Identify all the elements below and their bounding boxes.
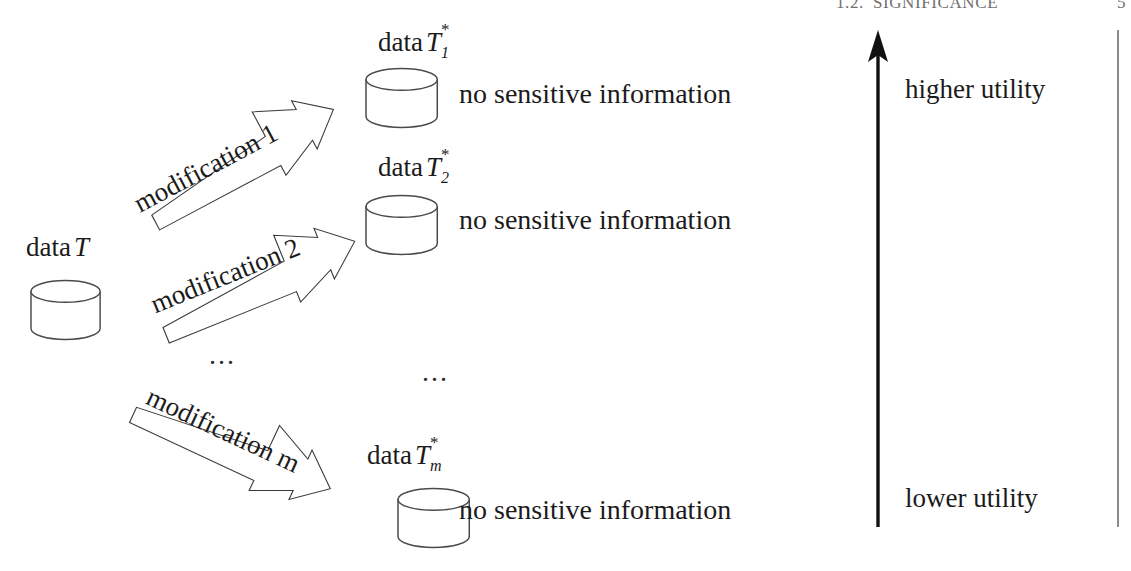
output-2-cylinder-icon (366, 196, 437, 255)
source-label-prefix: data (26, 232, 71, 262)
output-2-label-var-glyph: T (426, 152, 441, 182)
utility-axis-bottom-label: lower utility (905, 483, 1038, 514)
output-1-note: no sensitive information (459, 78, 731, 110)
output-m-label-variable: Tm* (415, 440, 430, 470)
output-1-label-superscript: * (441, 20, 450, 40)
output-m-label-superscript: * (430, 433, 439, 453)
output-1-cylinder-icon (366, 69, 437, 128)
output-2-label: dataT2* (378, 152, 441, 183)
output-m-label-subscript: m (430, 457, 442, 475)
output-2-label-prefix: data (378, 152, 423, 182)
utility-axis-arrow-icon (868, 30, 888, 527)
output-2-label-subscript: 2 (441, 169, 449, 187)
output-2-label-superscript: * (441, 145, 450, 165)
source-label-variable: T (74, 232, 89, 262)
output-m-note: no sensitive information (459, 494, 731, 526)
output-m-label-var-glyph: T (415, 440, 430, 470)
output-m-label-prefix: data (367, 440, 412, 470)
output-1-label-subscript: 1 (441, 44, 449, 62)
output-m-label: dataTm* (367, 440, 430, 471)
utility-axis-top-label: higher utility (905, 74, 1045, 105)
arrows-column-ellipsis: ... (209, 339, 236, 371)
outputs-column-ellipsis: ... (422, 356, 449, 388)
output-2-label-variable: T2* (426, 152, 441, 182)
output-2-note: no sensitive information (459, 204, 731, 236)
output-1-label-variable: T1* (426, 27, 441, 57)
figure-page: 1.2.SIGNIFICANCE 5 (0, 0, 1131, 571)
output-1-label-var-glyph: T (426, 27, 441, 57)
source-label: dataT (26, 232, 89, 263)
output-1-label-prefix: data (378, 27, 423, 57)
output-1-label: dataT1* (378, 27, 441, 58)
source-cylinder-icon (31, 281, 100, 340)
